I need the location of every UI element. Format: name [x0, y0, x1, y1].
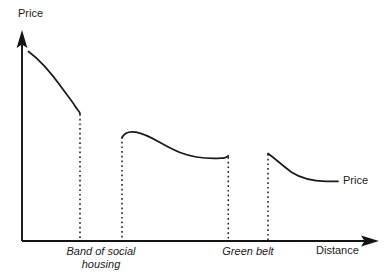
y-axis-label: Price	[18, 7, 43, 20]
price-curve-segment-1	[29, 52, 81, 114]
annotation-band-of-social-housing: Band of socialhousing	[50, 245, 152, 270]
price-curve-segment-2	[122, 132, 228, 159]
price-curve-segment-3	[268, 154, 338, 182]
annotation-line-2: housing	[82, 258, 121, 270]
annotation-green-belt: Green belt	[212, 245, 284, 258]
price-distance-chart: Price Distance Price Band of socialhousi…	[0, 0, 387, 278]
x-axis-label: Distance	[316, 244, 359, 257]
chart-canvas	[0, 0, 387, 278]
price-series-label: Price	[343, 174, 368, 187]
annotation-line-1: Band of social	[66, 245, 135, 257]
